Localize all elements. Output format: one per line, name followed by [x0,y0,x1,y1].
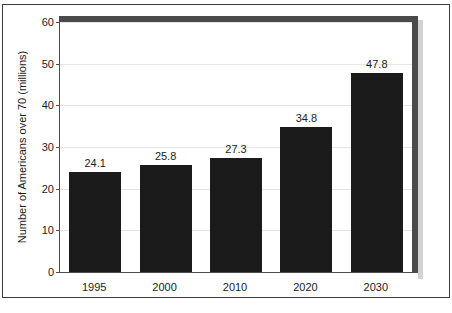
bar: 24.1 [69,172,121,272]
y-axis-tick-mark [56,147,60,148]
y-axis-tick-label: 20 [42,183,54,194]
y-axis-tick-mark [56,22,60,23]
bar-value-label: 27.3 [225,144,246,155]
gridline [60,64,412,65]
bar-value-label: 34.8 [296,113,317,124]
bar: 25.8 [140,165,192,273]
bar: 47.8 [351,73,403,272]
bar-value-label: 47.8 [366,59,387,70]
y-axis-tick-label: 30 [42,142,54,153]
plot-frame-right-band [411,16,418,273]
y-axis-tick-label: 10 [42,225,54,236]
figure-top-rule [2,4,450,5]
bar-chart-figure: Number of Americans over 70 (millions) 0… [0,0,452,313]
x-axis-tick-label: 2010 [223,282,247,293]
y-axis-tick-mark [56,230,60,231]
y-axis-tick-mark [56,272,60,273]
bar-value-label: 25.8 [155,151,176,162]
y-axis-tick-label: 0 [48,267,54,278]
y-axis-tick-mark [56,64,60,65]
bar-value-label: 24.1 [84,158,105,169]
bar: 34.8 [280,127,332,272]
y-axis-tick-mark [56,189,60,190]
x-axis-tick-label: 2030 [364,282,388,293]
x-axis-tick-label: 1995 [82,282,106,293]
y-axis-tick-label: 50 [42,58,54,69]
y-axis-title: Number of Americans over 70 (millions) [14,22,30,272]
plot-drop-shadow-right [418,20,423,279]
figure-left-rule [2,4,3,297]
y-axis-tick-label: 40 [42,100,54,111]
bar: 27.3 [210,158,262,272]
x-axis-tick-label: 2020 [293,282,317,293]
y-axis-title-text: Number of Americans over 70 (millions) [14,22,30,272]
figure-right-rule [449,4,450,297]
figure-bottom-rule [2,297,450,298]
y-axis-tick-label: 60 [42,17,54,28]
plot-area: 010203040506024.125.827.334.847.8 [59,22,412,273]
x-axis-tick-label: 2000 [152,282,176,293]
gridline [60,22,412,23]
y-axis-tick-mark [56,105,60,106]
